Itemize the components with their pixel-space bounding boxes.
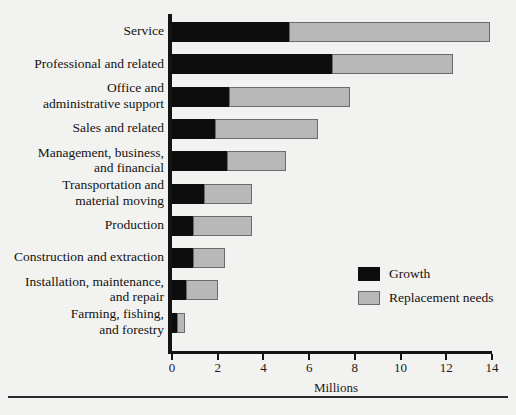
chart-figure: ServiceProfessional and relatedOffice an… — [0, 0, 516, 415]
category-label: Production — [0, 217, 164, 233]
bar-segment-growth — [172, 54, 332, 74]
bar-segment-growth — [172, 280, 186, 300]
legend-item-growth: Growth — [358, 266, 494, 282]
bar-segment-growth — [172, 151, 227, 171]
category-label: Sales and related — [0, 120, 164, 136]
bar-segment-replacement-needs — [229, 87, 350, 107]
category-label: Office and administrative support — [0, 80, 164, 111]
legend-item-replacement-needs: Replacement needs — [358, 290, 494, 306]
bar-segment-growth — [172, 184, 204, 204]
x-axis-tick-label: 4 — [260, 360, 267, 376]
bar-segment-replacement-needs — [193, 216, 252, 236]
bar-segment-growth — [172, 216, 193, 236]
x-axis-tick-label: 2 — [214, 360, 221, 376]
bar-segment-growth — [172, 119, 215, 139]
bar-segment-growth — [172, 248, 193, 268]
category-label: Installation, maintenance, and repair — [0, 274, 164, 305]
x-axis-tick-label: 12 — [440, 360, 453, 376]
bar-segment-replacement-needs — [177, 313, 185, 333]
x-axis-title-text: Millions — [314, 380, 358, 395]
bar-segment-growth — [172, 22, 289, 42]
category-label: Farming, fishing, and forestry — [0, 306, 164, 337]
x-axis-tick-label: 0 — [169, 360, 176, 376]
x-axis-tick-label: 6 — [306, 360, 313, 376]
bar-segment-replacement-needs — [332, 54, 453, 74]
gray-square-swatch-icon — [358, 291, 380, 305]
legend-label-replacement-needs: Replacement needs — [389, 290, 494, 306]
black-square-swatch-icon — [358, 267, 380, 281]
category-label: Management, business, and financial — [0, 145, 164, 176]
bar-segment-replacement-needs — [186, 280, 218, 300]
footer-divider — [8, 396, 508, 398]
chart-legend: Growth Replacement needs — [358, 266, 494, 314]
x-axis-tick-label: 8 — [352, 360, 359, 376]
category-label: Professional and related — [0, 56, 164, 72]
bar-segment-replacement-needs — [215, 119, 318, 139]
category-label: Service — [0, 23, 164, 39]
x-axis-tick-label: 14 — [486, 360, 499, 376]
legend-label-growth: Growth — [389, 266, 430, 282]
category-label: Construction and extraction — [0, 249, 164, 265]
x-axis-tick-label: 10 — [394, 360, 407, 376]
category-label: Transportation and material moving — [0, 177, 164, 208]
bar-segment-growth — [172, 87, 229, 107]
bar-segment-replacement-needs — [227, 151, 286, 171]
bar-segment-replacement-needs — [193, 248, 225, 268]
bar-segment-replacement-needs — [204, 184, 252, 204]
x-axis-title: Millions — [0, 380, 516, 396]
bar-segment-replacement-needs — [289, 22, 490, 42]
